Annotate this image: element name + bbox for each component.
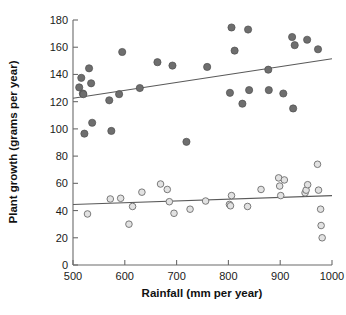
data-point-filled xyxy=(85,65,92,72)
data-point-filled xyxy=(154,59,161,66)
data-point-open xyxy=(318,222,325,229)
data-point-open xyxy=(166,198,173,205)
data-point-filled xyxy=(265,66,272,73)
data-point-filled xyxy=(289,33,296,40)
x-tick-label: 900 xyxy=(271,270,289,282)
axis-tick-marks xyxy=(73,20,332,265)
data-point-open xyxy=(319,234,326,241)
y-tick-label: 80 xyxy=(56,150,68,162)
data-point-open xyxy=(84,211,91,218)
data-point-filled xyxy=(136,84,143,91)
data-point-open xyxy=(171,210,178,217)
data-point-open xyxy=(244,203,251,210)
y-axis-tick-labels: 020406080100120140160180 xyxy=(50,14,68,271)
y-tick-label: 100 xyxy=(50,123,68,135)
y-tick-label: 180 xyxy=(50,14,68,26)
x-axis-tick-labels: 5006007008009001000 xyxy=(64,270,344,282)
data-point-open xyxy=(202,198,209,205)
data-point-filled xyxy=(304,36,311,43)
data-point-open xyxy=(187,206,194,213)
data-point-open xyxy=(317,206,324,213)
data-point-filled xyxy=(89,119,96,126)
x-tick-label: 700 xyxy=(167,270,185,282)
data-point-filled xyxy=(80,91,87,98)
data-point-filled xyxy=(291,42,298,49)
y-tick-label: 60 xyxy=(56,177,68,189)
data-point-filled xyxy=(88,80,95,87)
data-point-open xyxy=(281,177,288,184)
y-tick-label: 120 xyxy=(50,96,68,108)
data-point-filled xyxy=(78,74,85,81)
data-point-open xyxy=(139,189,146,196)
data-point-filled xyxy=(280,90,287,97)
data-point-open xyxy=(315,187,322,194)
data-point-filled xyxy=(169,62,176,69)
data-point-open xyxy=(126,221,133,228)
open-circle-points-group xyxy=(84,161,325,241)
y-tick-label: 140 xyxy=(50,68,68,80)
data-point-filled xyxy=(314,46,321,53)
data-point-filled xyxy=(108,127,115,134)
x-axis-title: Rainfall (mm per year) xyxy=(142,287,263,299)
plot-canvas: 020406080100120140160180 500600700800900… xyxy=(0,0,346,315)
data-point-filled xyxy=(244,26,251,33)
data-point-filled xyxy=(81,130,88,137)
data-point-filled xyxy=(116,91,123,98)
data-point-filled xyxy=(231,47,238,54)
data-point-open xyxy=(276,183,283,190)
y-tick-label: 40 xyxy=(56,205,68,217)
data-point-filled xyxy=(119,48,126,55)
data-point-open xyxy=(107,196,114,203)
y-tick-label: 160 xyxy=(50,41,68,53)
data-point-open xyxy=(157,181,164,188)
data-point-open xyxy=(164,186,171,193)
data-point-open xyxy=(117,195,124,202)
data-point-open xyxy=(277,192,284,199)
scatter-plot-figure: 020406080100120140160180 500600700800900… xyxy=(0,0,346,315)
x-tick-label: 600 xyxy=(116,270,134,282)
data-point-filled xyxy=(246,86,253,93)
data-point-filled xyxy=(204,63,211,70)
data-point-filled xyxy=(226,89,233,96)
x-tick-label: 500 xyxy=(64,270,82,282)
data-point-filled xyxy=(290,105,297,112)
data-point-filled xyxy=(106,97,113,104)
data-point-open xyxy=(227,202,234,209)
data-point-filled xyxy=(183,138,190,145)
trend-line xyxy=(73,59,332,98)
x-tick-label: 800 xyxy=(219,270,237,282)
y-tick-label: 20 xyxy=(56,232,68,244)
filled-circle-points-group xyxy=(76,24,322,146)
data-point-open xyxy=(304,181,311,188)
data-point-open xyxy=(258,186,265,193)
x-tick-label: 1000 xyxy=(320,270,344,282)
data-point-filled xyxy=(239,100,246,107)
data-point-filled xyxy=(228,24,235,31)
data-point-filled xyxy=(265,86,272,93)
data-point-open xyxy=(314,161,321,168)
y-axis-title: Plant growth (grams per year) xyxy=(7,60,19,223)
data-point-open xyxy=(228,192,235,199)
data-point-open xyxy=(129,203,136,210)
